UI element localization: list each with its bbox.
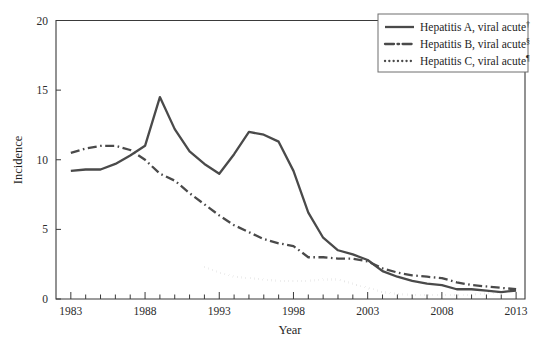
chart-figure: 05101520 1983198819931998200320082013 He… <box>0 0 537 347</box>
y-tick-label: 0 <box>42 293 48 305</box>
y-tick-label: 10 <box>37 154 49 166</box>
y-axis-title: Incidence <box>11 135 25 184</box>
series-line-a <box>71 97 516 292</box>
x-tick-label: 1993 <box>208 305 231 317</box>
series-group <box>71 97 516 295</box>
chart-legend: Hepatitis A, viral acute†Hepatitis B, vi… <box>378 14 530 72</box>
y-tick-label: 15 <box>37 84 49 96</box>
legend-label-a: Hepatitis A, viral acute† <box>420 20 530 34</box>
legend-label-c: Hepatitis C, viral acute¶ <box>420 54 530 68</box>
y-tick-label: 20 <box>37 15 49 27</box>
x-tick-label: 2008 <box>430 305 453 317</box>
legend-label-b: Hepatitis B, viral acute§ <box>420 37 530 51</box>
y-tick-label: 5 <box>42 223 48 235</box>
x-axis-title: Year <box>278 323 302 337</box>
x-axis-ticks: 1983198819931998200320082013 <box>59 292 528 317</box>
x-tick-label: 1983 <box>59 305 82 317</box>
series-line-c <box>204 267 516 295</box>
incidence-line-chart: 05101520 1983198819931998200320082013 He… <box>0 0 537 347</box>
x-tick-label: 2013 <box>505 305 528 317</box>
x-tick-label: 2003 <box>356 305 379 317</box>
series-line-b <box>71 146 516 289</box>
x-tick-label: 1998 <box>282 305 305 317</box>
x-tick-label: 1988 <box>134 305 157 317</box>
y-axis-ticks: 05101520 <box>37 15 62 306</box>
